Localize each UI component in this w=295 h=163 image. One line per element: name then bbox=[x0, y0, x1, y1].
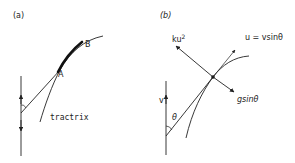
panel-a: (a) A B tractrix bbox=[13, 11, 103, 156]
drag-force-arrow-icon bbox=[176, 46, 213, 77]
velocity-label: v bbox=[159, 96, 164, 105]
panel-b: (b) v θ ku2 u = vsinθ gsinθ bbox=[159, 11, 283, 155]
angle-label: θ bbox=[172, 113, 177, 122]
segment-ab bbox=[58, 42, 82, 72]
tangent-line bbox=[21, 70, 60, 113]
panel-a-label: (a) bbox=[13, 11, 24, 20]
tangential-velocity-arrow-icon bbox=[213, 50, 235, 77]
panel-b-label: (b) bbox=[160, 11, 171, 20]
point-a-label: A bbox=[58, 70, 64, 79]
gravity-component-arrow-icon bbox=[213, 77, 234, 92]
angle-arc bbox=[21, 105, 26, 108]
drag-force-label: ku2 bbox=[172, 33, 185, 44]
tangential-velocity-label: u = vsinθ bbox=[245, 33, 283, 42]
string-line bbox=[166, 77, 213, 136]
point-b-label: B bbox=[85, 40, 91, 49]
diagram-canvas: (a) A B tractrix (b) v θ bbox=[0, 0, 295, 163]
tractrix-curve bbox=[40, 36, 103, 122]
gravity-component-label: gsinθ bbox=[237, 95, 259, 104]
tractrix-label: tractrix bbox=[50, 113, 89, 122]
